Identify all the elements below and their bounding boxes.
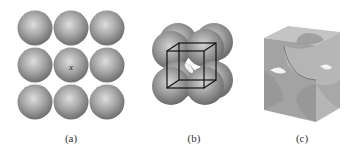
panel-label-b: (b) [174,132,214,144]
panel-c: (c) [240,0,349,156]
panel-a: x (a) [0,0,135,156]
panel-label-a: (a) [51,132,91,144]
center-marker: x [68,62,73,72]
panel-b: (b) [135,0,240,156]
panel-label-c: (c) [282,132,322,144]
